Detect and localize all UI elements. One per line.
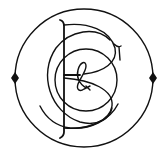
left-diamond-icon [11,72,19,84]
letter-c-outer [48,32,112,124]
letter-stem [60,20,64,138]
monogram-emblem: PBC& [0,0,168,155]
monogram-graphic [0,0,168,155]
outer-ring [15,9,153,147]
letter-b-lower-bowl [64,78,112,128]
right-diamond-icon [149,72,157,84]
ampersand-glyph [77,63,90,91]
